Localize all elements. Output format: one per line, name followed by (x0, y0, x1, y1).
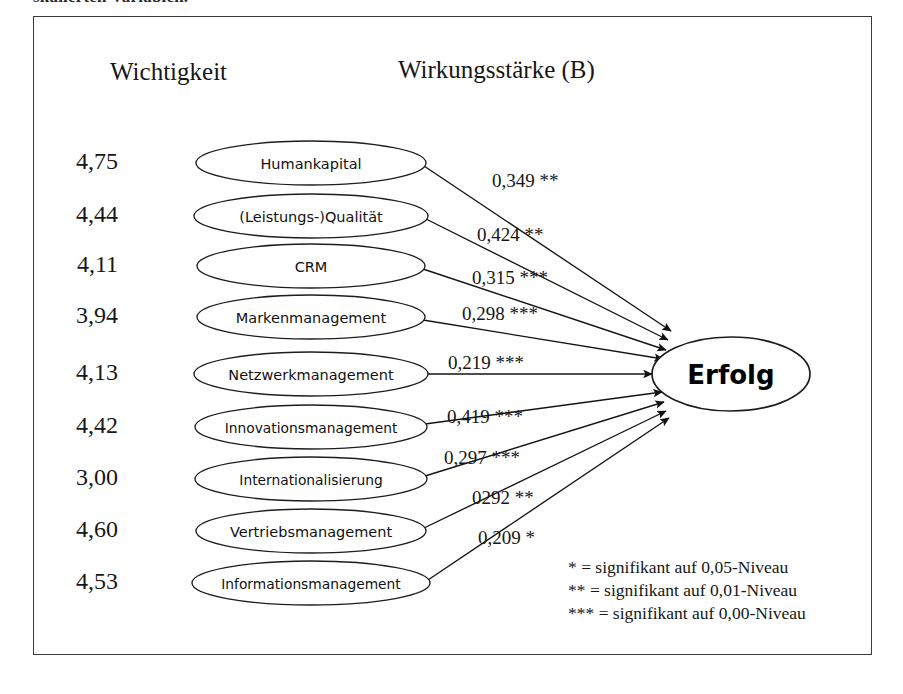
path-arrow (424, 411, 666, 528)
legend-line-2: ** = signifikant auf 0,01-Niveau (568, 579, 806, 602)
path-coefficient-label: 0,315 *** (472, 267, 548, 289)
significance-legend: * = signifikant auf 0,05-Niveau ** = sig… (568, 556, 806, 625)
driver-node-label: Innovationsmanagement (225, 420, 398, 436)
importance-score: 4,13 (48, 359, 118, 386)
importance-score: 4,75 (48, 148, 118, 175)
driver-node-label: Informationsmanagement (221, 576, 400, 592)
path-coefficient-label: 0,349 ** (492, 170, 559, 192)
driver-node-label: Humankapital (260, 156, 361, 172)
path-coefficient-label: 0,424 ** (477, 224, 544, 246)
legend-line-1: * = signifikant auf 0,05-Niveau (568, 556, 806, 579)
driver-node-label: Vertriebsmanagement (230, 524, 392, 540)
path-coefficient-label: 0,419 *** (447, 406, 523, 428)
diagram-page: skalierten Variablen. Wichtigkeit Wirkun… (0, 0, 903, 694)
path-coefficient-label: 0,219 *** (448, 352, 524, 374)
driver-node-label: Markenmanagement (236, 310, 386, 326)
driver-node-label: Internationalisierung (239, 472, 382, 488)
path-coefficient-label: 0,298 *** (462, 303, 538, 325)
legend-line-3: *** = signifikant auf 0,00-Niveau (568, 602, 806, 625)
importance-score: 3,94 (48, 302, 118, 329)
path-coefficient-label: 0,209 * (478, 527, 535, 549)
target-node-label: Erfolg (687, 360, 774, 390)
path-coefficient-label: 0,297 *** (444, 447, 520, 469)
driver-node-label: CRM (295, 259, 328, 275)
importance-score: 4,60 (48, 516, 118, 543)
importance-score: 4,53 (48, 568, 118, 595)
driver-node-label: (Leistungs-)Qualität (239, 209, 383, 225)
importance-score: 4,11 (48, 251, 118, 278)
importance-score: 4,42 (48, 412, 118, 439)
importance-score: 4,44 (48, 201, 118, 228)
importance-score: 3,00 (48, 464, 118, 491)
driver-node-label: Netzwerkmanagement (228, 367, 393, 383)
path-coefficient-label: 0292 ** (472, 487, 534, 509)
